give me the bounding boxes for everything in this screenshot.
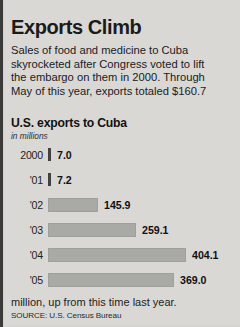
- bar: [48, 223, 136, 237]
- bar-value-label: 259.1: [136, 224, 169, 236]
- chart-row: '01 7.2: [11, 171, 233, 188]
- deck-line: Sales of food and medicine to Cuba: [11, 44, 233, 58]
- chart-row: '04 404.1: [11, 246, 233, 263]
- deck-line: skyrocketed after Congress voted to lift: [11, 58, 233, 72]
- bar-category-label: '01: [11, 174, 48, 186]
- page-title: Exports Climb: [11, 0, 233, 38]
- bar: [48, 248, 186, 262]
- bar-value-label: 369.0: [174, 274, 207, 286]
- deck-text: Sales of food and medicine to Cuba skyro…: [11, 44, 233, 98]
- bar-category-label: '04: [11, 249, 48, 261]
- chart-row: '03 259.1: [11, 221, 233, 238]
- bar-value-label: 145.9: [98, 199, 131, 211]
- bar-value-label: 7.0: [51, 149, 72, 161]
- chart-title: U.S. exports to Cuba: [11, 116, 233, 130]
- deck-line: the embargo on them in 2000. Through: [11, 71, 233, 85]
- infographic-panel: Exports Climb Sales of food and medicine…: [0, 0, 240, 327]
- chart-row: '02 145.9: [11, 196, 233, 213]
- bar: [48, 198, 98, 212]
- bar-chart: 2000 7.0 '01 7.2 '02 145.9 '03 259.1 '04…: [11, 146, 233, 288]
- bar-category-label: '02: [11, 199, 48, 211]
- footnote: million, up from this time last year.: [11, 296, 233, 309]
- chart-row: '05 369.0: [11, 271, 233, 288]
- chart-row: 2000 7.0: [11, 146, 233, 163]
- deck-line: May of this year, exports totaled $160.7: [11, 85, 233, 99]
- bar-category-label: '05: [11, 274, 48, 286]
- bar-category-label: '03: [11, 224, 48, 236]
- bar-value-label: 404.1: [186, 249, 219, 261]
- bar: [48, 273, 174, 287]
- chart-subtitle: in millions: [11, 131, 233, 141]
- bar-value-label: 7.2: [51, 174, 72, 186]
- source-line: SOURCE: U.S. Census Bureau: [11, 311, 233, 320]
- bar-category-label: 2000: [11, 149, 48, 161]
